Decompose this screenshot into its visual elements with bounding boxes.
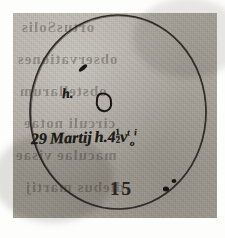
date-month: Martij [50, 129, 92, 147]
date-annotation: 29Martijh.412vtoi [31, 127, 137, 150]
manuscript-scan: ortusSolis observationes obstellarum cir… [0, 0, 225, 238]
hour-prefix: h. [95, 128, 108, 145]
folio-number: 15 [110, 178, 133, 200]
date-day: 29 [31, 130, 47, 147]
superscript-mark: t [127, 127, 130, 137]
sunspot-main [97, 93, 111, 111]
trailing-mark: i [134, 127, 137, 137]
sunspot-label-h: h. [62, 86, 74, 103]
ink-drawing-layer [0, 0, 225, 238]
subscript-mark: o [130, 138, 135, 148]
sunspot-upper [78, 63, 88, 73]
